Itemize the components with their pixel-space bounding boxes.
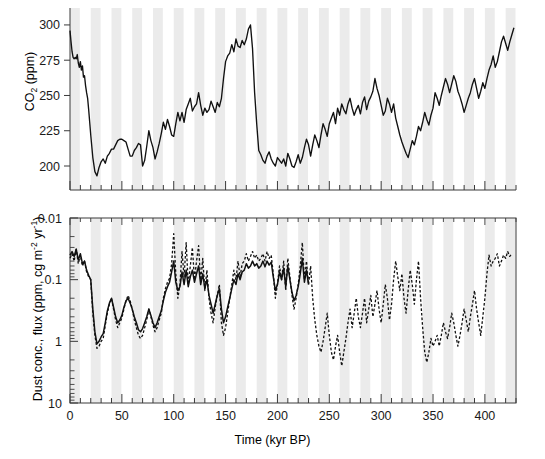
shaded-band — [132, 218, 142, 403]
shaded-band — [236, 218, 246, 403]
shaded-band — [464, 218, 474, 403]
x-tick-label: 100 — [163, 409, 184, 423]
co2-y-tick-label: 200 — [39, 160, 60, 174]
shaded-band — [70, 218, 80, 403]
x-tick-label: 300 — [371, 409, 392, 423]
shaded-band — [506, 8, 516, 190]
shaded-band — [381, 8, 391, 190]
paleoclimate-co2-dust-chart: 2002252502753000.010.1110050100150200250… — [0, 0, 545, 459]
shaded-band — [485, 8, 495, 190]
x-tick-label: 400 — [474, 409, 495, 423]
figure-container: 2002252502753000.010.1110050100150200250… — [0, 0, 545, 459]
shaded-band — [174, 218, 184, 403]
shaded-band — [506, 218, 516, 403]
shaded-band — [423, 218, 433, 403]
x-tick-label: 0 — [67, 409, 74, 423]
dust-y-tick-label: 0.1 — [45, 273, 62, 287]
shaded-band — [257, 218, 267, 403]
shaded-band — [132, 8, 142, 190]
shaded-bands-group — [70, 8, 515, 403]
shaded-band — [70, 8, 80, 190]
shaded-band — [340, 8, 350, 190]
co2-y-tick-label: 275 — [39, 54, 60, 68]
co2-axis-title: CO2 (ppm) — [20, 27, 39, 137]
co2-y-tick-label: 225 — [39, 124, 60, 138]
shaded-band — [236, 8, 246, 190]
x-tick-label: 150 — [215, 409, 236, 423]
co2-y-tick-label: 300 — [39, 18, 60, 32]
shaded-band — [464, 8, 474, 190]
shaded-band — [111, 8, 121, 190]
x-axis-title: Time (kyr BP) — [0, 430, 545, 448]
shaded-band — [402, 8, 412, 190]
shaded-band — [340, 218, 350, 403]
shaded-band — [153, 8, 163, 190]
shaded-band — [319, 218, 329, 403]
shaded-band — [485, 218, 495, 403]
shaded-band — [277, 218, 287, 403]
shaded-band — [319, 8, 329, 190]
co2-y-tick-label: 250 — [39, 89, 60, 103]
shaded-band — [443, 8, 453, 190]
x-tick-label: 200 — [267, 409, 288, 423]
shaded-band — [174, 8, 184, 190]
shaded-band — [215, 8, 225, 190]
dust-y-tick-label: 10 — [48, 397, 62, 411]
dust-flux-line — [70, 249, 309, 344]
shaded-band — [91, 8, 101, 190]
shaded-band — [194, 218, 204, 403]
shaded-band — [423, 8, 433, 190]
dust-axis-title: Dust conc., flux (ppm, cg m-2 yr-1) — [28, 189, 46, 429]
shaded-band — [443, 218, 453, 403]
shaded-band — [111, 218, 121, 403]
x-tick-label: 50 — [115, 409, 129, 423]
x-tick-label: 350 — [423, 409, 444, 423]
dust-y-tick-label: 1 — [55, 335, 62, 349]
x-tick-label: 250 — [319, 409, 340, 423]
